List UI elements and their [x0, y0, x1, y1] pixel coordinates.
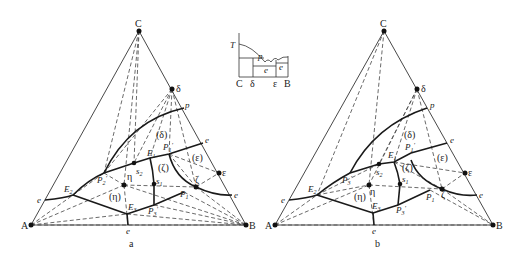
s2-point — [132, 161, 137, 166]
region-delta: (δ) — [156, 129, 167, 141]
vertex-B-point — [491, 223, 496, 228]
label-E2: E2 — [63, 184, 73, 195]
label-epsilon: ε — [222, 167, 226, 178]
epsilon-point — [217, 171, 222, 176]
region-delta: (δ) — [404, 129, 415, 141]
epsilon-point — [463, 171, 468, 176]
label-P3-prime-upper: P3′ — [341, 174, 353, 186]
label-s1: s1 — [156, 176, 163, 187]
binary-inset-diagram: T p e e C δ ε B — [230, 33, 291, 89]
region-epsilon: (ε) — [437, 152, 448, 164]
label-e-left: e — [281, 195, 285, 205]
label-P3-prime: P3′ — [147, 205, 159, 217]
label-e-right-lower: e — [479, 190, 483, 200]
label-P1: P1 — [179, 189, 189, 200]
region-eta: (η) — [354, 191, 366, 203]
label-E3: E3 — [371, 201, 381, 212]
vertex-A-point — [29, 223, 34, 228]
label-E3: E3 — [127, 202, 137, 213]
label-E1: E1 — [387, 150, 397, 161]
label-P3-prime: P3′ — [395, 204, 407, 216]
label-P2-prime: P2′ — [96, 174, 108, 186]
caption-a: a — [129, 238, 134, 249]
label-A: A — [265, 220, 273, 231]
panel-a: C A B δ p e ε e e e (δ) (ε) (ζ) (η) η ζ … — [21, 18, 256, 249]
label-P1-prime: P1′ — [404, 141, 416, 153]
zeta-point — [194, 185, 199, 190]
label-A: A — [21, 220, 29, 231]
label-B: B — [496, 220, 503, 231]
region-zeta: (ζ) — [158, 162, 169, 174]
label-e-bottom: e — [372, 226, 376, 236]
s2-point — [377, 162, 382, 167]
vertex-B-point — [244, 223, 249, 228]
inset-label-p: p — [257, 51, 263, 61]
triangle-outline — [275, 31, 493, 225]
inset-label-delta: δ — [250, 78, 255, 89]
label-e-right-lower: e — [234, 190, 238, 200]
label-epsilon: ε — [468, 167, 472, 178]
label-e-right-upper: e — [205, 135, 209, 145]
inset-label-B: B — [284, 78, 291, 89]
label-P1-prime: P1′ — [162, 141, 174, 153]
tie-lines — [275, 31, 493, 225]
region-eta: (η) — [109, 191, 121, 203]
label-e-left: e — [37, 195, 41, 205]
label-p: p — [184, 100, 190, 110]
label-delta: δ — [421, 83, 426, 94]
label-E2: E2 — [307, 184, 317, 195]
region-epsilon: (ε) — [192, 152, 203, 164]
label-s1: s1 — [402, 174, 409, 185]
label-C: C — [135, 18, 142, 29]
inset-label-C: C — [236, 78, 243, 89]
label-s2: s2 — [376, 167, 383, 178]
inset-label-e1: e — [264, 65, 268, 75]
label-zeta: ζ — [441, 189, 445, 201]
label-p: p — [429, 100, 435, 110]
vertex-A-point — [273, 223, 278, 228]
delta-point — [415, 87, 420, 92]
delta-point — [170, 87, 175, 92]
tie-lines — [31, 31, 246, 225]
phase-diagram-figure: T p e e C δ ε B — [0, 0, 522, 262]
triangle-outline — [31, 31, 246, 225]
label-E1: E1 — [146, 148, 156, 159]
label-C: C — [380, 18, 387, 29]
label-delta: δ — [176, 83, 181, 94]
panel-b: C A B δ p e ε e e e (δ) (ε) (ζ) (η) η ζ … — [265, 18, 503, 249]
inset-axis-T: T — [230, 40, 236, 50]
inset-label-epsilon: ε — [273, 78, 277, 89]
region-zeta: (ζ) — [402, 162, 413, 174]
label-zeta: ζ — [195, 174, 199, 186]
vertex-C-point — [382, 29, 387, 34]
label-eta: η — [127, 171, 132, 182]
label-e-right-upper: e — [450, 135, 454, 145]
label-P1: P1 — [425, 192, 435, 203]
label-eta: η — [370, 186, 375, 197]
label-B: B — [249, 220, 256, 231]
label-e-bottom: e — [126, 226, 130, 236]
eta-point — [122, 183, 127, 188]
inset-label-e2: e — [279, 62, 283, 72]
caption-b: b — [375, 238, 380, 249]
label-s2: s2 — [136, 166, 143, 177]
vertex-C-point — [137, 29, 142, 34]
